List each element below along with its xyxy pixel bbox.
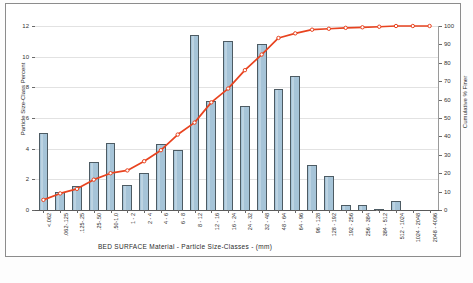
x-axis-tick — [211, 210, 212, 213]
x-axis-tick-label: <.062 — [46, 213, 52, 227]
x-axis-tick-label: 16 - 24 — [231, 213, 237, 230]
y-axis-right-title: Cumulative % Finer — [462, 37, 468, 167]
bar-highlight — [74, 187, 76, 210]
x-axis-tick-label: 4 - 6 — [163, 213, 169, 224]
bar — [290, 76, 300, 210]
x-axis-tick — [379, 210, 380, 213]
bar — [307, 165, 317, 210]
y-axis-right-tick-label: 90 — [444, 41, 464, 47]
x-axis-tick — [245, 210, 246, 213]
bar-highlight — [309, 166, 311, 210]
gridline — [35, 149, 438, 150]
x-axis-tick-label: 1 - 2 — [130, 213, 136, 224]
bar-highlight — [292, 77, 294, 210]
bar-highlight — [360, 206, 362, 210]
bar — [139, 173, 149, 210]
y-axis-right-tick — [439, 26, 442, 27]
y-axis-right-tick-label: 40 — [444, 133, 464, 139]
y-axis-right-tick — [439, 155, 442, 156]
y-axis-right-tick-label: 20 — [444, 170, 464, 176]
y-axis-left-tick-label: 10 — [9, 54, 29, 60]
y-axis-right-tick — [439, 81, 442, 82]
y-axis-right-tick — [439, 44, 442, 45]
chart-frame: 024681012 0102030405060708090100 <.062.0… — [5, 3, 461, 257]
x-axis-tick-label: 8 - 12 — [197, 213, 203, 227]
y-axis-right-tick — [439, 173, 442, 174]
bar — [206, 101, 216, 210]
bar-highlight — [276, 90, 278, 210]
y-axis-right-tick-label: 0 — [444, 207, 464, 213]
x-axis-tick — [161, 210, 162, 213]
y-axis-left-tick — [32, 179, 35, 180]
x-axis-tick-label: 12 - 16 — [214, 213, 220, 230]
x-axis-tick — [144, 210, 145, 213]
x-axis-tick — [278, 210, 279, 213]
x-axis-tick-label: 2 - 4 — [147, 213, 153, 224]
x-axis-tick-label: .50-1.0 — [113, 213, 119, 230]
bar — [274, 89, 284, 210]
x-axis-tick — [430, 210, 431, 213]
x-axis-tick — [94, 210, 95, 213]
bar-highlight — [57, 193, 59, 210]
bar — [190, 35, 200, 210]
x-axis-tick-label: .062-.125 — [63, 213, 69, 236]
x-axis-tick — [111, 210, 112, 213]
y-axis-left-tick — [32, 57, 35, 58]
bar-highlight — [208, 102, 210, 210]
y-axis-right-tick — [439, 63, 442, 64]
plot-area — [35, 26, 438, 210]
x-axis-tick-label: 256 - 384 — [365, 213, 371, 236]
y-axis-left-tick-label: 6 — [9, 115, 29, 121]
bar — [156, 144, 166, 210]
bar — [72, 186, 82, 210]
x-axis-tick-label: 1024 - 2048 — [415, 213, 421, 242]
y-axis-left-title: Particle Size-Class Percent — [20, 34, 26, 164]
x-axis-tick — [77, 210, 78, 213]
y-axis-right-tick — [439, 210, 442, 211]
bar — [173, 150, 183, 210]
x-axis-tick — [127, 210, 128, 213]
y-axis-left-tick — [32, 87, 35, 88]
y-axis-right-tick-label: 10 — [444, 189, 464, 195]
x-axis-tick — [178, 210, 179, 213]
bar-highlight — [225, 42, 227, 210]
y-axis-right-tick — [439, 118, 442, 119]
x-axis-tick — [60, 210, 61, 213]
x-axis-tick — [396, 210, 397, 213]
y-axis-left-tick — [32, 210, 35, 211]
bar-highlight — [343, 206, 345, 210]
y-axis-right-tick — [439, 100, 442, 101]
bar-highlight — [141, 174, 143, 210]
x-axis-tick-label: 6 - 8 — [180, 213, 186, 224]
x-axis-tick — [43, 210, 44, 213]
y-axis-left-tick-label: 12 — [9, 23, 29, 29]
y-axis-right-tick-label: 80 — [444, 60, 464, 66]
bar-highlight — [393, 202, 395, 210]
bar-highlight — [259, 45, 261, 210]
chart-figure: 024681012 0102030405060708090100 <.062.0… — [0, 0, 473, 283]
bar-highlight — [192, 36, 194, 210]
x-axis-tick-label: 32 - 48 — [264, 213, 270, 230]
bar-highlight — [158, 145, 160, 210]
y-axis-right-tick-label: 60 — [444, 97, 464, 103]
gridline — [35, 118, 438, 119]
gridline — [35, 87, 438, 88]
y-axis-left-tick-label: 0 — [9, 207, 29, 213]
bar-highlight — [326, 177, 328, 211]
y-axis-left-tick — [32, 118, 35, 119]
bar — [106, 143, 116, 210]
bar — [391, 201, 401, 210]
x-axis-title: BED SURFACE Material - Particle Size-Cla… — [35, 243, 335, 250]
x-axis-tick — [329, 210, 330, 213]
bar — [122, 185, 132, 210]
x-axis-tick-label: 384 - 512 — [382, 213, 388, 236]
y-axis-right-tick — [439, 136, 442, 137]
bar-highlight — [242, 107, 244, 210]
x-axis-tick-label: 64 - 96 — [298, 213, 304, 230]
y-axis-left-tick-label: 4 — [9, 146, 29, 152]
bar — [257, 44, 267, 210]
x-axis-tick-label: 24 - 32 — [247, 213, 253, 230]
x-axis-tick-label: .25-.50 — [96, 213, 102, 230]
x-axis-tick-label: 96 - 128 — [315, 213, 321, 233]
gridline — [35, 57, 438, 58]
